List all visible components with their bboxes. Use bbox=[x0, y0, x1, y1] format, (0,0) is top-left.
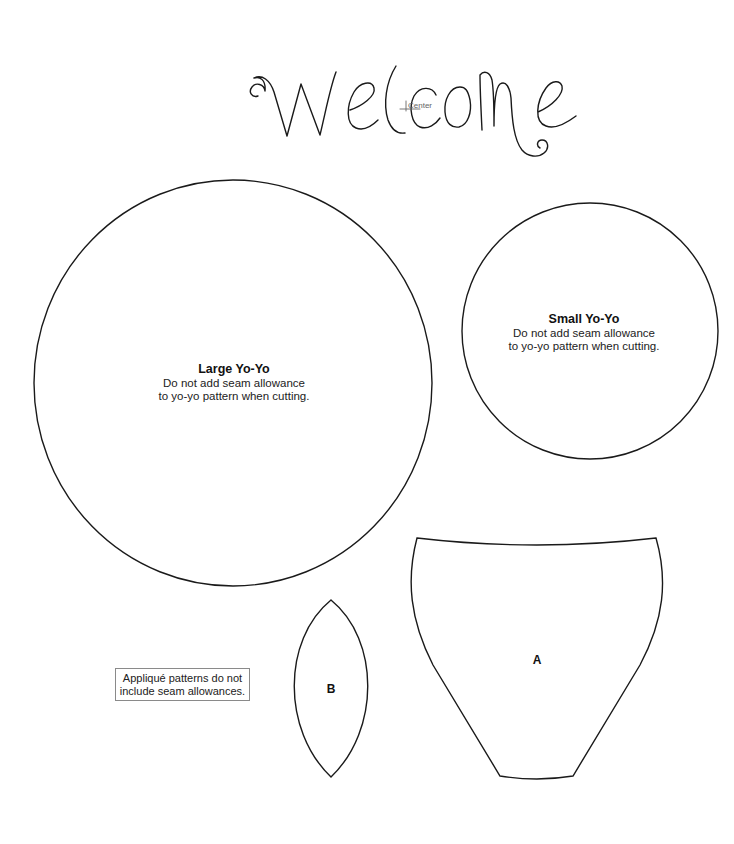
small-yoyo-instruction-line2: to yo-yo pattern when cutting. bbox=[509, 340, 660, 353]
piece-a-label: A bbox=[533, 653, 542, 667]
small-yoyo-title: Small Yo-Yo bbox=[509, 312, 660, 327]
letter-w bbox=[250, 72, 336, 136]
large-yoyo-instruction-line1: Do not add seam allowance bbox=[159, 377, 310, 390]
piece-b-label: B bbox=[327, 682, 336, 696]
letter-l bbox=[386, 66, 405, 133]
small-yoyo-label: Small Yo-Yo Do not add seam allowance to… bbox=[509, 312, 660, 353]
note-line2: include seam allowances. bbox=[116, 685, 249, 698]
small-yoyo-instruction-line1: Do not add seam allowance bbox=[509, 327, 660, 340]
letter-e-1 bbox=[348, 83, 378, 129]
welcome-lettering bbox=[250, 66, 576, 156]
large-yoyo-label: Large Yo-Yo Do not add seam allowance to… bbox=[159, 362, 310, 403]
large-yoyo-instruction-line2: to yo-yo pattern when cutting. bbox=[159, 390, 310, 403]
center-mark-label: Center bbox=[408, 101, 432, 110]
large-yoyo-title: Large Yo-Yo bbox=[159, 362, 310, 377]
pattern-sheet bbox=[0, 0, 734, 844]
seam-allowance-note: Appliqué patterns do not include seam al… bbox=[115, 668, 250, 701]
letter-o bbox=[445, 87, 471, 127]
letter-e-2 bbox=[538, 82, 576, 127]
note-line1: Appliqué patterns do not bbox=[116, 672, 249, 685]
